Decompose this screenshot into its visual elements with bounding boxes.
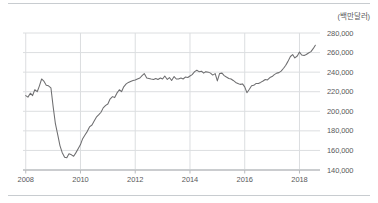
chart-figure: (백만달러) 280,000260,000240,000220,000200,0… [0, 0, 378, 203]
y-tick-label-160000: 160,000 [327, 146, 375, 155]
gridlines-group [23, 33, 320, 170]
x-tick-label-2016: 2016 [225, 175, 265, 184]
y-tick-label-240000: 240,000 [327, 68, 375, 77]
x-tick-label-2008: 2008 [6, 175, 46, 184]
y-tick-label-140000: 140,000 [327, 166, 375, 175]
x-tick-label-2018: 2018 [279, 175, 319, 184]
y-tick-label-280000: 280,000 [327, 29, 375, 38]
x-tick-label-2010: 2010 [60, 175, 100, 184]
y-tick-label-220000: 220,000 [327, 87, 375, 96]
x-axis-ticks-group [26, 33, 300, 174]
line-chart-plot [0, 0, 378, 203]
x-tick-label-2012: 2012 [115, 175, 155, 184]
y-tick-label-200000: 200,000 [327, 107, 375, 116]
y-tick-label-180000: 180,000 [327, 126, 375, 135]
x-tick-label-2014: 2014 [170, 175, 210, 184]
y-tick-label-260000: 260,000 [327, 48, 375, 57]
series-line [26, 45, 316, 158]
